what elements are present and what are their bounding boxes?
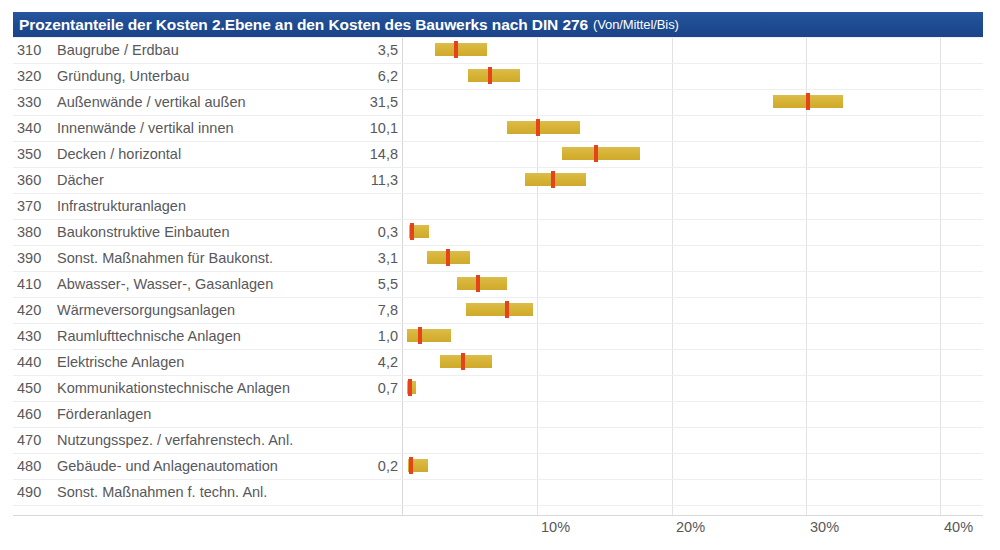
row-label: Decken / horizontal (57, 141, 181, 167)
table-row: 370Infrastrukturanlagen (13, 193, 983, 219)
row-value: 5,5 (298, 271, 398, 297)
range-bar (407, 329, 451, 342)
row-code: 320 (17, 63, 41, 89)
row-code: 490 (17, 479, 41, 505)
axis-tick-label: 40% (944, 519, 973, 535)
axis-tick-label: 30% (810, 519, 839, 535)
row-label: Gebäude- und Anlagenautomation (57, 453, 278, 479)
mean-marker (446, 249, 450, 266)
table-row: 330Außenwände / vertikal außen31,5 (13, 89, 983, 115)
row-code: 310 (17, 37, 41, 63)
table-row: 310Baugrube / Erdbau3,5 (13, 37, 983, 63)
row-code: 380 (17, 219, 41, 245)
row-value: 11,3 (298, 167, 398, 193)
row-value (298, 479, 398, 505)
table-row: 380Baukonstruktive Einbauten0,3 (13, 219, 983, 245)
table-row: 340Innenwände / vertikal innen10,1 (13, 115, 983, 141)
chart-header: Prozentanteile der Kosten 2.Ebene an den… (13, 12, 983, 37)
row-code: 430 (17, 323, 41, 349)
row-label: Dächer (57, 167, 104, 193)
row-code: 340 (17, 115, 41, 141)
row-separator (13, 505, 983, 506)
row-code: 370 (17, 193, 41, 219)
range-bar (457, 277, 507, 290)
row-value: 3,5 (298, 37, 398, 63)
row-code: 450 (17, 375, 41, 401)
mean-marker (476, 275, 480, 292)
mean-marker (409, 457, 413, 474)
row-value: 14,8 (298, 141, 398, 167)
row-code: 390 (17, 245, 41, 271)
mean-marker (488, 67, 492, 84)
row-value: 7,8 (298, 297, 398, 323)
chart-subtitle: (Von/Mittel/Bis) (593, 17, 679, 32)
mean-marker (505, 301, 509, 318)
table-row: 390Sonst. Maßnahmen für Baukonst.3,1 (13, 245, 983, 271)
chart-plot-area: 310Baugrube / Erdbau3,5320Gründung, Unte… (13, 37, 983, 536)
table-row: 360Dächer11,3 (13, 167, 983, 193)
mean-marker (418, 327, 422, 344)
row-label: Förderanlagen (57, 401, 151, 427)
mean-marker (536, 119, 540, 136)
table-row: 410Abwasser-, Wasser-, Gasanlagen5,5 (13, 271, 983, 297)
chart-title: Prozentanteile der Kosten 2.Ebene an den… (19, 16, 588, 34)
row-value (298, 193, 398, 219)
row-code: 470 (17, 427, 41, 453)
table-row: 440Elektrische Anlagen4,2 (13, 349, 983, 375)
axis-tick-label: 20% (676, 519, 705, 535)
mean-marker (551, 171, 555, 188)
row-label: Raumlufttechnische Anlagen (57, 323, 241, 349)
row-value: 0,3 (298, 219, 398, 245)
mean-marker (410, 223, 414, 240)
row-code: 330 (17, 89, 41, 115)
row-code: 460 (17, 401, 41, 427)
table-row: 420Wärmeversorgungsanlagen7,8 (13, 297, 983, 323)
row-value: 0,7 (298, 375, 398, 401)
axis-tick-label: 10% (541, 519, 570, 535)
row-label: Baugrube / Erdbau (57, 37, 179, 63)
row-label: Außenwände / vertikal außen (57, 89, 246, 115)
row-value (298, 401, 398, 427)
row-code: 360 (17, 167, 41, 193)
table-row: 470Nutzungsspez. / verfahrenstech. Anl. (13, 427, 983, 453)
cost-share-chart: Prozentanteile der Kosten 2.Ebene an den… (13, 12, 983, 536)
row-label: Sonst. Maßnahmen f. techn. Anl. (57, 479, 267, 505)
row-label: Kommunikationstechnische Anlagen (57, 375, 290, 401)
row-label: Infrastrukturanlagen (57, 193, 186, 219)
row-code: 480 (17, 453, 41, 479)
mean-marker (454, 41, 458, 58)
row-label: Sonst. Maßnahmen für Baukonst. (57, 245, 273, 271)
mean-marker (594, 145, 598, 162)
row-value: 4,2 (298, 349, 398, 375)
row-value: 1,0 (298, 323, 398, 349)
row-label: Innenwände / vertikal innen (57, 115, 234, 141)
row-value (298, 427, 398, 453)
row-value: 6,2 (298, 63, 398, 89)
table-row: 460Förderanlagen (13, 401, 983, 427)
row-value: 0,2 (298, 453, 398, 479)
row-label: Elektrische Anlagen (57, 349, 184, 375)
mean-marker (806, 93, 810, 110)
row-label: Nutzungsspez. / verfahrenstech. Anl. (57, 427, 293, 453)
row-value: 10,1 (298, 115, 398, 141)
row-label: Baukonstruktive Einbauten (57, 219, 230, 245)
table-row: 350Decken / horizontal14,8 (13, 141, 983, 167)
row-label: Wärmeversorgungsanlagen (57, 297, 235, 323)
range-bar (440, 355, 492, 368)
row-code: 350 (17, 141, 41, 167)
table-row: 430Raumlufttechnische Anlagen1,0 (13, 323, 983, 349)
range-bar (466, 303, 533, 316)
table-row: 320Gründung, Unterbau6,2 (13, 63, 983, 89)
table-row: 450Kommunikationstechnische Anlagen0,7 (13, 375, 983, 401)
mean-marker (461, 353, 465, 370)
row-code: 410 (17, 271, 41, 297)
table-row: 480Gebäude- und Anlagenautomation0,2 (13, 453, 983, 479)
range-bar (525, 173, 586, 186)
row-label: Abwasser-, Wasser-, Gasanlagen (57, 271, 273, 297)
mean-marker (408, 379, 412, 396)
range-bar (435, 43, 487, 56)
row-code: 420 (17, 297, 41, 323)
row-value: 3,1 (298, 245, 398, 271)
axis-baseline (13, 515, 983, 516)
row-code: 440 (17, 349, 41, 375)
